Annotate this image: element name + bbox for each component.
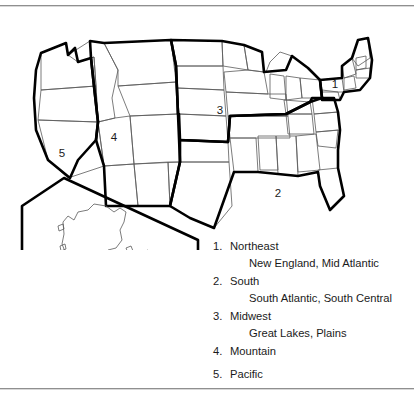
- legend-subregions-midwest: Great Lakes, Plains: [249, 325, 411, 341]
- legend-item-pacific: 5. Pacific: [213, 366, 411, 383]
- state-border-al: [276, 136, 298, 176]
- us-map-svg: 1 2 3 4 5: [8, 10, 398, 250]
- top-horizontal-rule: [0, 5, 414, 6]
- state-border-ar: [228, 116, 290, 138]
- state-border-nj: [344, 76, 356, 90]
- state-border-nm: [134, 162, 170, 206]
- state-border-co: [130, 114, 180, 164]
- state-border-mo: [226, 92, 288, 116]
- legend-item-northeast: 1. Northeast: [213, 238, 411, 255]
- legend-number: 3.: [213, 308, 230, 325]
- state-border-mt: [104, 40, 176, 86]
- state-border-tn: [286, 114, 314, 134]
- state-border-la: [230, 138, 258, 172]
- alaska-outline: [41, 204, 140, 250]
- legend-item-midwest: 3. Midwest: [213, 308, 411, 325]
- bottom-horizontal-rule: [0, 388, 414, 389]
- state-border-sd: [176, 66, 224, 90]
- region-number-3: 3: [217, 104, 223, 116]
- state-border-wy: [118, 82, 178, 116]
- legend-number: 1.: [213, 238, 230, 255]
- legend-region-name: Pacific: [230, 366, 263, 383]
- legend-region-name: Mountain: [230, 343, 276, 360]
- region-borders-group: [34, 38, 372, 228]
- state-border-ok: [180, 140, 229, 162]
- alaska-hawaii-inset-frame: [22, 178, 198, 250]
- region-border-south: [170, 98, 344, 228]
- region-border-pacific: [34, 43, 98, 178]
- hawaii-outline: [126, 246, 192, 250]
- state-border-ms: [258, 136, 278, 170]
- state-border-sc: [316, 130, 338, 148]
- legend-region-name: Midwest: [230, 308, 271, 325]
- legend-number: 5.: [213, 366, 230, 383]
- state-border-ks: [179, 114, 228, 142]
- region-number-2: 2: [275, 187, 281, 199]
- state-border-ga: [296, 134, 320, 172]
- state-border-nv-ca: [38, 120, 104, 178]
- region-number-4: 4: [111, 131, 118, 143]
- region-border-midwest: [171, 40, 322, 142]
- united-states-regions-figure: 1 2 3 4 5 1. Northeast New England, Mid …: [0, 10, 414, 385]
- state-border-ma-ct-ri: [356, 68, 370, 78]
- state-border-or: [38, 86, 98, 122]
- legend-number: 4.: [213, 343, 230, 360]
- state-border-nc: [314, 112, 340, 132]
- state-border-ia: [224, 70, 268, 94]
- state-border-in: [286, 76, 302, 100]
- legend-number: 2.: [213, 273, 230, 290]
- state-border-oh: [300, 78, 322, 98]
- state-border-nd: [171, 40, 223, 66]
- legend-region-name: Northeast: [230, 238, 279, 255]
- legend-subregions-northeast: New England, Mid Atlantic: [249, 255, 411, 271]
- legend-item-mountain: 4. Mountain: [213, 343, 411, 360]
- legend-subregions-south: South Atlantic, South Central: [249, 290, 411, 306]
- legend-region-name: South: [230, 273, 259, 290]
- region-number-1: 1: [332, 78, 338, 90]
- region-border-mountain: [90, 40, 180, 206]
- map-legend: 1. Northeast New England, Mid Atlantic 2…: [213, 238, 411, 383]
- state-border-il: [270, 74, 286, 100]
- state-borders-group: [38, 38, 370, 228]
- state-border-nh-vt: [356, 56, 366, 70]
- legend-item-south: 2. South: [213, 273, 411, 290]
- region-number-5: 5: [59, 147, 65, 159]
